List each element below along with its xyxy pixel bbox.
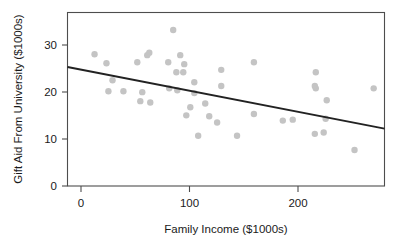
data-point <box>290 116 296 122</box>
data-point <box>202 100 208 106</box>
data-point <box>313 69 319 75</box>
data-point <box>218 67 224 73</box>
x-axis-label: Family Income ($1000s) <box>164 223 288 235</box>
data-point <box>214 119 220 125</box>
data-point <box>103 60 109 66</box>
data-point <box>173 69 179 75</box>
data-point <box>191 79 197 85</box>
data-point <box>146 50 152 56</box>
y-ticklabel-0: 0 <box>51 180 57 192</box>
data-point <box>195 133 201 139</box>
y-ticklabel-20: 20 <box>44 86 57 98</box>
data-point <box>321 129 327 135</box>
plot-canvas: 0 10 20 30 0 100 200 Family Income ($100… <box>0 0 412 246</box>
x-axis-ticks <box>81 186 298 192</box>
data-point <box>280 117 286 123</box>
data-point <box>312 131 318 137</box>
data-point <box>234 133 240 139</box>
data-point <box>183 112 189 118</box>
x-axis-ticklabels: 0 100 200 <box>78 197 308 209</box>
data-point <box>370 85 376 91</box>
data-point <box>218 83 224 89</box>
scatter-points <box>91 27 377 153</box>
data-point <box>251 59 257 65</box>
regression-line <box>68 67 385 129</box>
x-ticklabel-0: 0 <box>78 197 84 209</box>
data-point <box>91 51 97 57</box>
data-point <box>187 104 193 110</box>
data-point <box>109 77 115 83</box>
data-point <box>351 147 357 153</box>
x-ticklabel-200: 200 <box>288 197 307 209</box>
data-point <box>251 111 257 117</box>
x-ticklabel-100: 100 <box>180 197 199 209</box>
data-point <box>120 88 126 94</box>
data-point <box>177 52 183 58</box>
y-ticklabel-30: 30 <box>44 39 57 51</box>
data-point <box>147 99 153 105</box>
data-point <box>105 88 111 94</box>
data-point <box>170 27 176 33</box>
data-point <box>312 83 318 89</box>
y-ticklabel-10: 10 <box>44 133 57 145</box>
data-point <box>139 89 145 95</box>
data-point <box>134 59 140 65</box>
y-axis-ticks <box>62 45 68 186</box>
plot-frame <box>68 13 385 187</box>
data-point <box>206 113 212 119</box>
data-point <box>180 69 186 75</box>
data-point <box>165 59 171 65</box>
data-point <box>181 61 187 67</box>
y-axis-label: Gift Aid From University ($1000s) <box>12 14 24 184</box>
data-point <box>137 98 143 104</box>
scatter-plot-figure: 0 10 20 30 0 100 200 Family Income ($100… <box>0 0 412 246</box>
y-axis-ticklabels: 0 10 20 30 <box>44 39 57 192</box>
data-point <box>324 97 330 103</box>
